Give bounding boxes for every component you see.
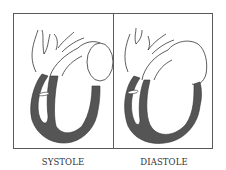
myocardium-walls — [125, 76, 202, 143]
systole-heart-illustration — [14, 14, 113, 148]
diastole-heart-illustration — [114, 14, 212, 148]
myocardium-walls — [31, 74, 100, 143]
diastole-label: DIASTOLE — [114, 157, 214, 167]
heart-cycle-figure: SYSTOLE DIASTOLE — [0, 0, 226, 170]
vena-cava-outline — [32, 30, 38, 72]
systole-label: SYSTOLE — [13, 157, 113, 167]
